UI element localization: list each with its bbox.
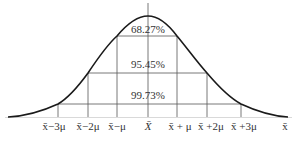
percent-label-99: 99.73%	[131, 89, 165, 101]
tick-label-minus-2mu: x̄−2μ	[76, 120, 99, 132]
percent-label-68: 68.27%	[131, 23, 165, 35]
x-axis-end-label: x̄	[282, 120, 288, 132]
tick-label-plus-mu: x̄ + μ	[168, 120, 191, 132]
normal-distribution-diagram: 68.27% 95.45% 99.73% x̄−3μ x̄−2μ x̄−μ X̄…	[0, 0, 295, 144]
percent-label-95: 95.45%	[131, 58, 165, 70]
tick-label-plus-2mu: x̄ +2μ	[198, 120, 224, 132]
tick-label-mean: X̄	[144, 120, 153, 132]
tick-label-minus-mu: x̄−μ	[108, 120, 126, 132]
tick-label-plus-3mu: x̄ +3μ	[231, 120, 257, 132]
tick-label-minus-3mu: x̄−3μ	[42, 120, 65, 132]
